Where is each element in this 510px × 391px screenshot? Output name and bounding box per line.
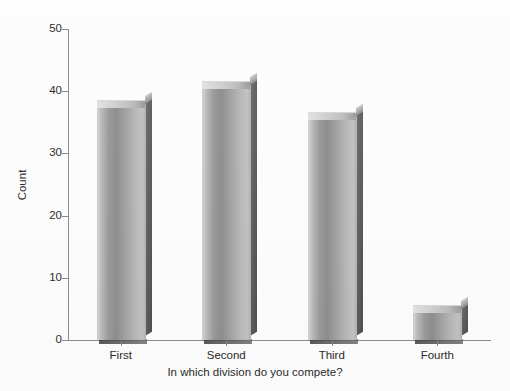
bar-second	[202, 85, 250, 340]
bar-side-face	[356, 108, 363, 336]
y-axis-tick-label: 40	[28, 85, 62, 97]
bar-front-face	[202, 85, 251, 340]
bars-group	[68, 29, 490, 340]
bar-front-face	[97, 104, 146, 340]
bar-top-face	[413, 305, 461, 313]
x-axis-tick-label: Third	[319, 349, 345, 361]
x-axis-tick-label: First	[110, 349, 132, 361]
x-axis-tick-label: Second	[207, 349, 246, 361]
x-axis-tick-label: Fourth	[421, 349, 454, 361]
y-axis-tick-label: 20	[28, 210, 62, 222]
x-axis-title: In which division do you compete?	[0, 366, 510, 378]
bar-first	[97, 104, 145, 340]
y-axis-tick-label: 10	[28, 272, 62, 284]
bar-side-face	[145, 95, 152, 336]
bar-side-face	[250, 77, 257, 336]
y-axis-title: Count	[16, 170, 28, 201]
bar-chart: 01020304050 FirstSecondThirdFourth Count…	[0, 0, 510, 391]
x-axis-tick	[121, 341, 122, 346]
bar-front-face	[308, 116, 357, 340]
y-axis-tick-label: 30	[28, 148, 62, 160]
bar-top-face	[97, 100, 145, 108]
y-axis-tick-label: 0	[28, 334, 62, 346]
x-axis-tick	[332, 341, 333, 346]
bar-top-face	[308, 112, 356, 120]
bar-front-face	[413, 309, 462, 340]
bar-third	[308, 116, 356, 340]
y-axis-tick	[62, 340, 68, 341]
x-axis-tick	[437, 341, 438, 346]
bar-top-face	[202, 81, 250, 89]
x-axis-tick	[226, 341, 227, 346]
y-axis-tick-label: 50	[28, 23, 62, 35]
bar-fourth	[413, 309, 461, 340]
